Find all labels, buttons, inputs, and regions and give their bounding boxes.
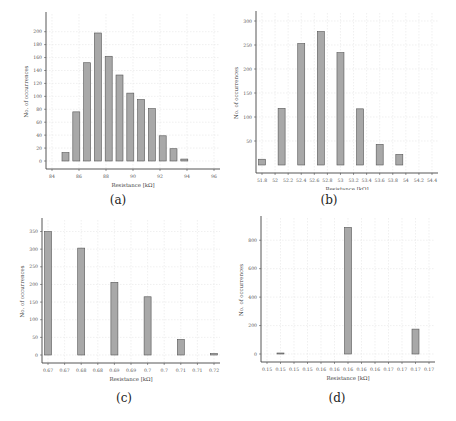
- caption-a: (a): [98, 193, 138, 207]
- x-tick-label: 0.7: [161, 368, 168, 373]
- x-tick-label: 0.72: [209, 368, 219, 373]
- y-tick-label: 250: [29, 264, 38, 269]
- histogram-bar: [181, 159, 188, 161]
- histogram-bar: [277, 353, 284, 354]
- x-tick-label: 0.17: [383, 367, 393, 372]
- histogram-c: 0.670.670.680.680.690.690.70.70.710.710.…: [0, 215, 230, 395]
- y-tick-label: 150: [243, 91, 252, 96]
- x-axis-label: Resistance [kΩ]: [325, 186, 368, 190]
- y-tick-label: 50: [246, 139, 252, 144]
- y-tick-label: 800: [248, 238, 257, 243]
- x-tick-label: 52: [272, 178, 278, 183]
- histogram-bar: [159, 136, 166, 161]
- y-tick-label: 0: [39, 159, 42, 164]
- y-tick-label: 300: [243, 19, 252, 24]
- histogram-bar: [94, 33, 101, 161]
- x-tick-label: 53.6: [375, 178, 385, 183]
- x-tick-label: 0.16: [329, 367, 339, 372]
- histogram-bar: [345, 227, 352, 354]
- x-tick-label: 94: [184, 174, 190, 179]
- x-tick-label: 0.69: [109, 368, 119, 373]
- x-tick-label: 0.68: [76, 368, 86, 373]
- histogram-bar: [144, 297, 151, 355]
- y-tick-label: 350: [29, 229, 38, 234]
- y-tick-label: 180: [33, 42, 42, 47]
- x-tick-label: 0.16: [370, 367, 380, 372]
- y-tick-label: 140: [33, 68, 42, 73]
- x-tick-label: 90: [130, 174, 136, 179]
- x-tick-label: 0.68: [93, 368, 103, 373]
- x-tick-label: 92: [157, 174, 163, 179]
- histogram-bar: [259, 159, 266, 165]
- histogram-bar: [337, 53, 344, 165]
- histogram-bar: [138, 100, 145, 161]
- y-tick-label: 200: [33, 29, 42, 34]
- y-axis-label: No. of occurrences: [23, 65, 29, 117]
- x-tick-label: 0.16: [316, 367, 326, 372]
- histogram-bar: [170, 149, 177, 161]
- y-tick-label: 600: [248, 266, 257, 271]
- x-tick-label: 52.4: [296, 178, 306, 183]
- x-tick-label: 51.8: [257, 178, 267, 183]
- histogram-bar: [412, 329, 419, 354]
- y-tick-label: 120: [33, 81, 42, 86]
- x-tick-label: 53: [338, 178, 344, 183]
- y-tick-label: 60: [36, 120, 42, 125]
- histogram-bar: [396, 154, 403, 165]
- y-tick-label: 0: [35, 353, 38, 358]
- x-tick-label: 86: [76, 174, 82, 179]
- y-tick-label: 200: [29, 282, 38, 287]
- y-tick-label: 200: [243, 67, 252, 72]
- histogram-bar: [317, 32, 324, 165]
- histogram-b: 51.85252.252.452.652.85353.253.453.653.8…: [230, 0, 456, 190]
- chart-panel-c: 0.670.670.680.680.690.690.70.70.710.710.…: [0, 215, 230, 421]
- x-tick-label: 0.15: [289, 367, 299, 372]
- x-tick-label: 0.15: [302, 367, 312, 372]
- histogram-bar: [148, 109, 155, 161]
- y-tick-label: 300: [29, 247, 38, 252]
- histogram-bar: [105, 56, 112, 161]
- histogram-a: 8486889092949602040608010012014016018020…: [0, 0, 230, 190]
- x-tick-label: 88: [103, 174, 109, 179]
- histogram-d: 0.150.150.150.150.160.160.160.160.160.17…: [230, 215, 456, 395]
- y-axis-label: No. of occurrences: [19, 265, 25, 317]
- y-tick-label: 0: [254, 352, 257, 357]
- chart-panel-a: 8486889092949602040608010012014016018020…: [0, 0, 230, 210]
- x-tick-label: 52.8: [322, 178, 332, 183]
- x-tick-label: 84: [49, 174, 55, 179]
- histogram-bar: [78, 248, 85, 355]
- x-tick-label: 0.67: [59, 368, 69, 373]
- histogram-bar: [84, 63, 91, 161]
- y-tick-label: 100: [243, 115, 252, 120]
- y-tick-label: 80: [36, 107, 42, 112]
- x-tick-label: 96: [211, 174, 217, 179]
- x-tick-label: 0.17: [410, 367, 420, 372]
- histogram-bar: [278, 108, 285, 165]
- y-axis-label: No. of occurrences: [233, 67, 239, 119]
- y-tick-label: 50: [32, 335, 38, 340]
- x-tick-label: 52.6: [309, 178, 319, 183]
- y-tick-label: 20: [36, 146, 42, 151]
- y-tick-label: 40: [36, 133, 42, 138]
- chart-panel-d: 0.150.150.150.150.160.160.160.160.160.17…: [230, 215, 456, 421]
- x-tick-label: 0.17: [424, 367, 434, 372]
- caption-b: (b): [309, 193, 349, 207]
- x-tick-label: 53.4: [361, 178, 371, 183]
- y-tick-label: 250: [243, 43, 252, 48]
- histogram-bar: [177, 339, 184, 355]
- x-tick-label: 0.16: [356, 367, 366, 372]
- x-tick-label: 0.71: [176, 368, 186, 373]
- y-axis-label: No. of occurrences: [238, 264, 244, 316]
- y-tick-label: 400: [248, 295, 257, 300]
- x-tick-label: 54.4: [427, 178, 437, 183]
- histogram-bar: [62, 153, 69, 161]
- x-tick-label: 0.16: [343, 367, 353, 372]
- x-tick-label: 0.15: [262, 367, 272, 372]
- caption-d: (d): [317, 391, 357, 405]
- x-tick-label: 0.71: [192, 368, 202, 373]
- x-tick-label: 0.7: [144, 368, 151, 373]
- x-tick-label: 53.8: [388, 178, 398, 183]
- x-tick-label: 52.2: [283, 178, 293, 183]
- histogram-bar: [73, 112, 80, 161]
- caption-c: (c): [104, 391, 144, 405]
